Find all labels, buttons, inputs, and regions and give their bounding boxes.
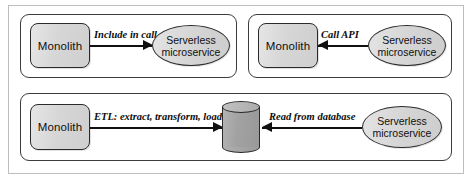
edge-label-etl: ETL: extract, transform, load: [93, 111, 223, 122]
edge-label-read-from-database: Read from database: [268, 111, 356, 122]
serverless-node-panel-b: Serverless microservice: [368, 25, 446, 66]
database-top-ellipse: [222, 101, 260, 113]
serverless-label-line1: Serverless: [377, 115, 427, 127]
diagram-canvas: Monolith Include in call Serverless micr…: [0, 0, 472, 180]
database-body: [222, 107, 260, 147]
edge-label-include-in-call: Include in call: [93, 29, 158, 40]
monolith-label: Monolith: [38, 40, 82, 52]
serverless-label-line1: Serverless: [382, 34, 432, 46]
serverless-label-line2: microservice: [373, 127, 432, 139]
arrow-head-read-from-database: [262, 122, 272, 132]
monolith-label: Monolith: [38, 121, 82, 133]
monolith-label: Monolith: [266, 40, 310, 52]
serverless-label-line1: Serverless: [166, 34, 216, 46]
serverless-node-panel-c: Serverless microservice: [362, 106, 442, 148]
serverless-label-line2: microservice: [378, 46, 437, 58]
serverless-node-panel-a: Serverless microservice: [152, 25, 230, 66]
serverless-label-line2: microservice: [162, 46, 221, 58]
edge-label-call-api: Call API: [320, 29, 360, 40]
arrow-shaft-etl: [90, 127, 222, 129]
database-cylinder-icon: [222, 101, 260, 153]
monolith-node-panel-a: Monolith: [30, 23, 90, 68]
arrow-head-call-api: [318, 40, 328, 50]
monolith-node-panel-c: Monolith: [30, 104, 90, 150]
arrow-shaft-read-from-database: [262, 127, 362, 129]
monolith-node-panel-b: Monolith: [258, 23, 318, 68]
